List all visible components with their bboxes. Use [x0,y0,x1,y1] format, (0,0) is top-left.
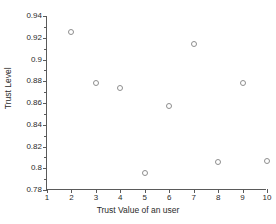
y-tick-mark [43,168,47,169]
y-tick-label: 0.9 [31,56,42,64]
data-point [240,80,246,86]
y-tick-label: 0.82 [26,143,42,151]
y-tick-label: 0.86 [26,99,42,107]
y-tick-mark-minor [44,70,47,71]
scatter-chart: 0.780.80.820.840.860.880.90.920.94 12345… [0,0,276,224]
x-tick-label: 6 [167,194,171,202]
y-tick-mark [43,81,47,82]
y-tick-mark-minor [44,179,47,180]
data-point [68,29,74,35]
y-tick-mark-minor [44,27,47,28]
x-tick-label: 5 [143,194,147,202]
x-tick-label: 10 [263,194,272,202]
plot-area: 0.780.80.820.840.860.880.90.920.94 12345… [46,16,266,190]
x-axis-title: Trust Value of an user [0,206,276,215]
data-point [142,170,148,176]
data-point [93,80,99,86]
x-tick-label: 8 [216,194,220,202]
y-tick-mark [43,125,47,126]
x-tick-label: 2 [69,194,73,202]
y-tick-mark [43,147,47,148]
x-tick-label: 7 [191,194,195,202]
x-tick-label: 4 [118,194,122,202]
y-tick-mark [43,103,47,104]
y-tick-mark-minor [44,49,47,50]
y-axis-title: Trust Level [4,28,13,148]
x-tick-label: 3 [94,194,98,202]
data-point [166,103,172,109]
y-tick-mark-minor [44,157,47,158]
y-tick-label: 0.92 [26,34,42,42]
y-tick-mark [43,38,47,39]
x-tick-label: 1 [45,194,49,202]
y-tick-mark [43,16,47,17]
data-point [215,159,221,165]
x-tick-label: 9 [240,194,244,202]
y-tick-mark-minor [44,92,47,93]
y-tick-label: 0.88 [26,77,42,85]
y-tick-mark [43,60,47,61]
data-point [117,85,123,91]
data-point [191,41,197,47]
y-tick-mark-minor [44,114,47,115]
y-tick-mark-minor [44,136,47,137]
y-tick-label: 0.8 [31,164,42,172]
y-tick-label: 0.78 [26,186,42,194]
y-tick-label: 0.84 [26,121,42,129]
data-point [264,158,270,164]
y-tick-label: 0.94 [26,12,42,20]
